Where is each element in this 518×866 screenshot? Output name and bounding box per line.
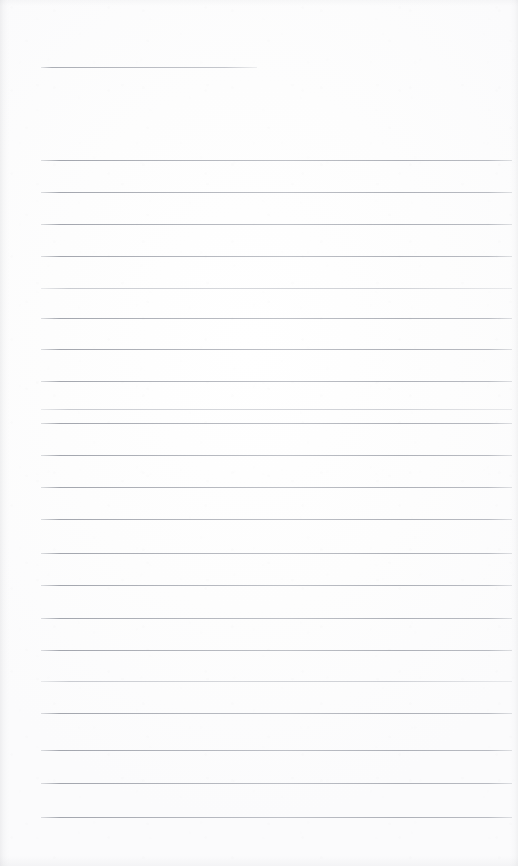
ruled-line bbox=[41, 553, 512, 554]
ruled-line bbox=[41, 224, 512, 225]
ruled-line-ink bbox=[41, 288, 512, 289]
ruled-line bbox=[41, 160, 512, 161]
ruled-line-ink bbox=[41, 750, 512, 751]
ruled-line-ink bbox=[41, 192, 512, 193]
ruled-line-ink bbox=[41, 553, 512, 554]
ruled-line-ink bbox=[41, 256, 512, 257]
ruled-line-ink bbox=[41, 487, 512, 488]
ruled-line-ink bbox=[41, 817, 512, 818]
header-rule bbox=[41, 67, 257, 68]
ruled-line bbox=[41, 585, 512, 586]
ruled-line bbox=[41, 713, 512, 714]
ruled-line bbox=[41, 519, 512, 520]
ruled-line bbox=[41, 423, 512, 424]
ruled-line-ink bbox=[41, 783, 512, 784]
ruled-line-ink bbox=[41, 224, 512, 225]
ruled-line bbox=[41, 349, 512, 350]
header-rule-ink bbox=[41, 67, 257, 68]
ruled-line-ink bbox=[41, 455, 512, 456]
ruled-line-ink bbox=[41, 318, 512, 319]
ruled-line bbox=[41, 409, 512, 410]
ruled-line bbox=[41, 681, 512, 682]
scanned-page bbox=[0, 0, 518, 866]
ruled-line bbox=[41, 256, 512, 257]
ruled-line-ink bbox=[41, 681, 512, 682]
ruled-line bbox=[41, 618, 512, 619]
ruled-line bbox=[41, 750, 512, 751]
ruled-line-ink bbox=[41, 713, 512, 714]
ruled-line-ink bbox=[41, 519, 512, 520]
ruled-line-ink bbox=[41, 585, 512, 586]
ruled-line bbox=[41, 192, 512, 193]
ruled-line bbox=[41, 455, 512, 456]
ruled-line bbox=[41, 318, 512, 319]
ruled-line bbox=[41, 288, 512, 289]
ruled-line-ink bbox=[41, 650, 512, 651]
ruled-line-ink bbox=[41, 409, 512, 410]
ruled-line-ink bbox=[41, 349, 512, 350]
ruled-line bbox=[41, 381, 512, 382]
ruled-line bbox=[41, 650, 512, 651]
ruled-line-ink bbox=[41, 381, 512, 382]
ruled-line-ink bbox=[41, 423, 512, 424]
ruled-line bbox=[41, 487, 512, 488]
paper-surface bbox=[0, 0, 518, 866]
ruled-line-ink bbox=[41, 160, 512, 161]
ruled-line bbox=[41, 817, 512, 818]
ruled-line-ink bbox=[41, 618, 512, 619]
ruled-line bbox=[41, 783, 512, 784]
